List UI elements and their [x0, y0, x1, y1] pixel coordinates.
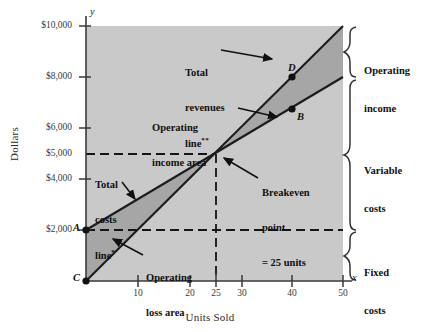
- operating-income-area-1: Operating: [152, 122, 206, 134]
- point-label-c: C: [73, 272, 80, 284]
- total-revenues-line-1: Total: [185, 67, 224, 79]
- total-costs-line-3-text: line: [95, 250, 111, 261]
- variable-costs-bracket-1: Variable: [364, 165, 402, 178]
- point-label-a: A: [73, 222, 80, 234]
- operating-income-bracket-2: income: [364, 103, 410, 116]
- fixed-costs-bracket-label: Fixed costs: [364, 242, 389, 332]
- operating-loss-area-1: Operating: [146, 272, 192, 284]
- point-a: [82, 226, 89, 233]
- total-costs-line-1: Total: [95, 179, 118, 191]
- x-axis-letter: x: [352, 272, 357, 284]
- total-costs-line-2: costs: [95, 214, 118, 226]
- x-tick-label-30: 30: [229, 288, 255, 299]
- breakeven-line-3: = 25 units: [262, 257, 310, 269]
- total-costs-footnote-mark: *: [111, 248, 115, 256]
- total-costs-line-3: line*: [95, 249, 118, 261]
- breakeven-line-1: Breakeven: [262, 187, 310, 199]
- variable-costs-bracket: [344, 80, 356, 230]
- breakeven-line-2: point: [262, 222, 310, 234]
- y-tick-label-2000: $2,000: [8, 224, 72, 235]
- x-tick-label-50: 50: [330, 288, 356, 299]
- variable-costs-bracket-2: costs: [364, 203, 402, 216]
- y-axis-letter: y: [90, 6, 95, 18]
- point-label-b: B: [297, 111, 304, 123]
- y-tick-label-10000: $10,000: [8, 20, 72, 31]
- fixed-costs-bracket-1: Fixed: [364, 267, 389, 280]
- operating-loss-area-label: Operating loss area: [146, 248, 192, 332]
- point-label-d: D: [288, 62, 296, 74]
- total-costs-line-label: Total costs line*: [95, 155, 118, 285]
- breakeven-point-label: Breakeven point = 25 units: [262, 163, 310, 292]
- point-d: [288, 73, 295, 80]
- y-tick-label-8000: $8,000: [8, 71, 72, 82]
- operating-income-area-label: Operating income area: [152, 98, 206, 192]
- y-axis-title: Dollars: [8, 109, 20, 179]
- x-tick-label-25: 25: [203, 288, 229, 299]
- point-c: [82, 277, 89, 284]
- fixed-costs-bracket-2: costs: [364, 305, 389, 318]
- cvp-breakeven-chart: $10,000 $8,000 $6,000 $5,000 $4,000 $2,0…: [0, 0, 426, 332]
- operating-income-bracket-label: Operating income: [364, 40, 410, 141]
- operating-income-bracket-1: Operating: [364, 65, 410, 78]
- operating-income-bracket: [344, 27, 356, 77]
- point-b: [288, 105, 295, 112]
- operating-income-area-2: income area: [152, 157, 206, 169]
- operating-loss-area-2: loss area: [146, 307, 192, 319]
- variable-costs-bracket-label: Variable costs: [364, 140, 402, 241]
